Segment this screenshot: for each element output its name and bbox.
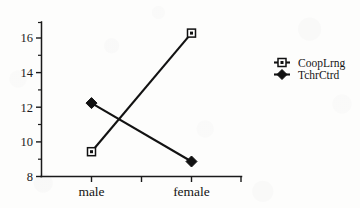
series-cooplrng-line bbox=[92, 33, 192, 152]
filled-diamond-icon bbox=[277, 70, 287, 80]
y-axis-major-ticks bbox=[36, 38, 42, 177]
series-tchrctrd-point-female bbox=[186, 156, 197, 167]
series-cooplrng-point-male bbox=[88, 148, 96, 156]
y-tick-label-10: 10 bbox=[21, 135, 34, 149]
legend-label-tchrctrd: TchrCtrd bbox=[298, 69, 340, 81]
series-cooplrng-point-female bbox=[188, 29, 196, 37]
legend-item-tchrctrd[interactable]: TchrCtrd bbox=[274, 69, 340, 81]
x-tick-label-female: female bbox=[173, 184, 210, 199]
legend: CoopLrng TchrCtrd bbox=[274, 57, 346, 81]
y-tick-label-14: 14 bbox=[21, 66, 34, 80]
line-chart: 16 14 12 10 8 male female bbox=[0, 0, 360, 208]
y-tick-label-16: 16 bbox=[21, 31, 34, 45]
y-tick-label-12: 12 bbox=[21, 101, 34, 115]
series-cooplrng bbox=[88, 29, 196, 156]
series-tchrctrd bbox=[86, 98, 197, 167]
chart-page: 16 14 12 10 8 male female bbox=[0, 0, 360, 208]
y-tick-label-8: 8 bbox=[27, 170, 33, 184]
open-square-icon bbox=[278, 59, 286, 67]
x-axis-ticks bbox=[92, 177, 242, 183]
x-tick-label-male: male bbox=[78, 184, 104, 199]
series-tchrctrd-point-male bbox=[86, 98, 97, 109]
